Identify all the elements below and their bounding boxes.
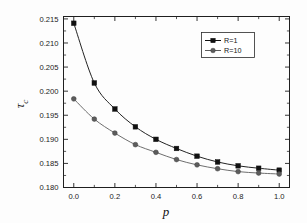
x-tick-label: 1.0 bbox=[274, 192, 285, 201]
y-tick-label: 0.195 bbox=[39, 111, 58, 120]
data-point-marker bbox=[174, 146, 179, 151]
data-point-marker bbox=[174, 157, 179, 162]
data-point-marker bbox=[154, 150, 159, 155]
legend-sample-marker bbox=[211, 38, 215, 42]
data-point-marker bbox=[236, 169, 241, 174]
y-tick-label: 0.180 bbox=[39, 183, 58, 192]
y-axis-title-subscript: c bbox=[20, 100, 30, 104]
x-tick-label: 0.2 bbox=[110, 192, 121, 201]
legend-label: R=1 bbox=[224, 36, 237, 45]
data-point-marker bbox=[133, 142, 138, 147]
data-point-marker bbox=[236, 164, 241, 169]
y-tick-label: 0.210 bbox=[39, 39, 58, 48]
chart-legend: R=1R=10 bbox=[202, 33, 255, 58]
data-point-marker bbox=[195, 154, 200, 159]
x-tick-label: 0.8 bbox=[233, 192, 244, 201]
data-point-marker bbox=[92, 81, 97, 86]
data-point-marker bbox=[133, 125, 138, 130]
data-point-marker bbox=[215, 160, 220, 165]
line-chart: 0.1800.1850.1900.1950.2000.2050.2100.215… bbox=[0, 0, 307, 223]
data-point-marker bbox=[71, 96, 76, 101]
x-tick-label: 0.6 bbox=[192, 192, 203, 201]
data-point-marker bbox=[277, 172, 282, 177]
x-tick-label: 0.0 bbox=[68, 192, 79, 201]
y-tick-label: 0.215 bbox=[39, 15, 58, 24]
x-tick-label: 0.4 bbox=[151, 192, 162, 201]
y-tick-label: 0.190 bbox=[39, 135, 58, 144]
data-point-marker bbox=[71, 21, 76, 26]
data-point-marker bbox=[195, 162, 200, 167]
data-point-marker bbox=[92, 117, 97, 122]
data-point-marker bbox=[154, 137, 159, 142]
legend-sample-marker bbox=[211, 48, 216, 53]
data-point-marker bbox=[215, 166, 220, 171]
data-point-marker bbox=[113, 107, 118, 112]
data-point-marker bbox=[256, 166, 261, 171]
x-axis-title: p bbox=[162, 204, 170, 219]
chart-figure: 0.1800.1850.1900.1950.2000.2050.2100.215… bbox=[0, 0, 307, 223]
data-point-marker bbox=[256, 171, 261, 176]
data-point-marker bbox=[112, 131, 117, 136]
y-tick-label: 0.205 bbox=[39, 63, 58, 72]
y-tick-label: 0.200 bbox=[39, 87, 58, 96]
y-tick-label: 0.185 bbox=[39, 159, 58, 168]
legend-label: R=10 bbox=[224, 46, 241, 55]
